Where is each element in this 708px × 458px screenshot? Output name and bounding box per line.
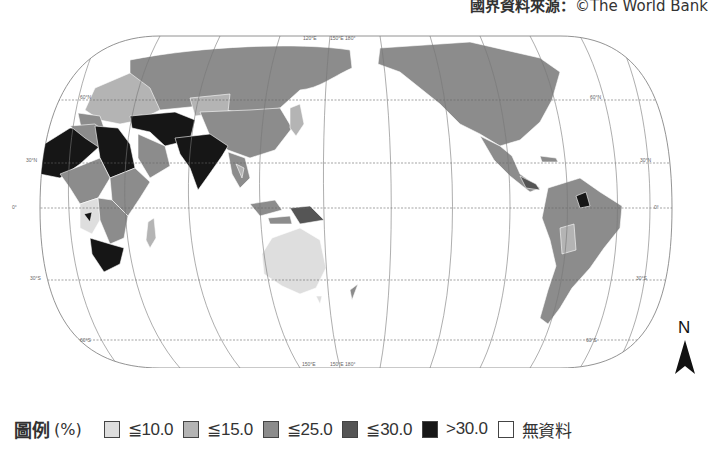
legend-item-nodata: 無資料 [498, 417, 572, 442]
svg-text:60°N: 60°N [80, 94, 92, 100]
legend-label: ≦15.0 [207, 419, 253, 440]
legend-swatch [498, 421, 514, 438]
legend-item-le10: ≦10.0 [104, 419, 174, 440]
legend-swatch [104, 421, 120, 438]
legend-item-gt30: >30.0 [422, 419, 488, 439]
map-legend: 圖例 (%) ≦10.0 ≦15.0 ≦25.0 ≦30.0 >30.0 無資料 [14, 417, 582, 441]
svg-text:30°N: 30°N [640, 157, 652, 163]
svg-text:30°S: 30°S [30, 275, 42, 281]
svg-text:0°: 0° [654, 204, 659, 210]
legend-swatch [263, 421, 279, 438]
legend-swatch [422, 421, 438, 438]
legend-swatch [183, 421, 199, 438]
north-arrow: N [671, 318, 699, 376]
svg-text:30°N: 30°N [26, 157, 38, 163]
source-prefix: 國界資料來源： [470, 0, 575, 15]
north-arrow-icon [671, 318, 699, 376]
svg-text:150°E 180°: 150°E 180° [330, 35, 355, 41]
source-credit: ©The World Bank [575, 0, 708, 15]
legend-label: ≦25.0 [287, 419, 333, 440]
svg-text:0°: 0° [12, 204, 17, 210]
legend-unit: (%) [54, 420, 82, 439]
svg-text:60°S: 60°S [80, 337, 92, 343]
legend-title: 圖例 [14, 416, 50, 442]
svg-text:30°S: 30°S [636, 275, 648, 281]
legend-label: 無資料 [522, 417, 572, 442]
world-choropleth-map: 60°N 30°N 0° 30°S 60°S 60°N 30°N 0° 30°S… [0, 28, 708, 368]
legend-item-le30: ≦30.0 [342, 419, 412, 440]
legend-item-le25: ≦25.0 [263, 419, 333, 440]
svg-text:60°S: 60°S [586, 337, 598, 343]
svg-text:60°N: 60°N [590, 94, 602, 100]
legend-item-le15: ≦15.0 [183, 419, 253, 440]
svg-text:150°E 180°: 150°E 180° [330, 361, 355, 367]
legend-label: >30.0 [446, 419, 488, 439]
legend-label: ≦10.0 [128, 419, 174, 440]
legend-swatch [342, 421, 358, 438]
data-source-credit: 國界資料來源：©The World Bank [470, 0, 708, 15]
legend-label: ≦30.0 [366, 419, 412, 440]
svg-text:150°E: 150°E [302, 361, 316, 367]
svg-text:120°E: 120°E [303, 35, 317, 41]
